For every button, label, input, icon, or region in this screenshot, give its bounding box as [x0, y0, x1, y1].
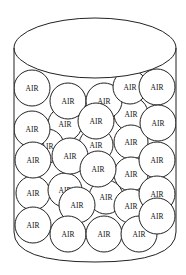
air-ball: AIR [139, 198, 175, 234]
ball-label: AIR [90, 141, 103, 150]
ball-label: AIR [92, 165, 105, 174]
ball-label: AIR [133, 230, 146, 239]
balls-layer: AIRAIRAIRAIRAIRAIRAIRAIRAIRAIRAIRAIRAIRA… [14, 69, 176, 252]
air-ball: AIR [140, 105, 176, 141]
ball-label: AIR [125, 170, 138, 179]
ball-label: AIR [98, 230, 111, 239]
ball-label: AIR [90, 117, 103, 126]
jar-of-air-balls-diagram: AIRAIRAIRAIRAIRAIRAIRAIRAIRAIRAIRAIRAIRA… [0, 0, 186, 275]
ball-label: AIR [124, 83, 137, 92]
ball-label: AIR [151, 156, 164, 165]
air-ball: AIR [86, 216, 122, 252]
air-ball: AIR [78, 103, 114, 139]
ball-label: AIR [71, 201, 84, 210]
ball-label: AIR [26, 125, 39, 134]
ball-label: AIR [27, 189, 40, 198]
air-ball: AIR [80, 151, 116, 187]
ball-label: AIR [64, 152, 77, 161]
air-ball: AIR [16, 176, 50, 210]
ball-label: AIR [59, 120, 72, 129]
ball-label: AIR [62, 230, 75, 239]
air-ball: AIR [139, 69, 175, 105]
ball-label: AIR [125, 110, 138, 119]
ball-label: AIR [26, 84, 39, 93]
ball-label: AIR [27, 156, 40, 165]
ball-label: AIR [152, 119, 165, 128]
diagram-canvas: AIRAIRAIRAIRAIRAIRAIRAIRAIRAIRAIRAIRAIRA… [0, 0, 186, 275]
ball-label: AIR [100, 193, 113, 202]
ball-label: AIR [125, 202, 138, 211]
ball-label: AIR [125, 138, 138, 147]
jar-top-ellipse [14, 18, 176, 78]
air-ball: AIR [15, 142, 51, 178]
ball-label: AIR [27, 221, 40, 230]
air-ball: AIR [50, 216, 86, 252]
ball-label: AIR [151, 83, 164, 92]
ball-label: AIR [62, 97, 75, 106]
air-ball: AIR [139, 142, 175, 178]
ball-label: AIR [151, 212, 164, 221]
air-ball: AIR [15, 207, 51, 243]
air-ball: AIR [14, 70, 50, 106]
ball-label: AIR [151, 190, 164, 199]
